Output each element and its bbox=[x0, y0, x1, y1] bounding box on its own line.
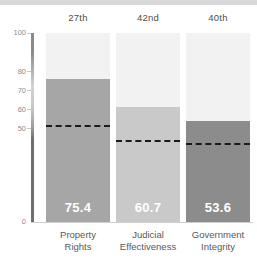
y-tick-mark-50 bbox=[27, 128, 31, 129]
y-tick-mark-80 bbox=[27, 71, 31, 72]
y-tick-mark-60 bbox=[27, 109, 31, 110]
bar-value-government-integrity: 53.6 bbox=[186, 200, 250, 215]
y-tick-label-100: 100 bbox=[4, 29, 26, 37]
y-tick-mark-100 bbox=[27, 33, 31, 34]
rule-of-law-bar-chart: 27th 42nd 40th 100 80 70 60 50 0 75. bbox=[0, 0, 257, 259]
category-label-property-rights: Property Rights bbox=[41, 229, 115, 252]
category-label-line: Judicial bbox=[111, 229, 185, 241]
category-label-judicial-effectiveness: Judicial Effectiveness bbox=[111, 229, 185, 252]
y-tick-label-70: 70 bbox=[4, 87, 26, 95]
y-tick-mark-70 bbox=[27, 90, 31, 91]
plot-area: 100 80 70 60 50 0 75.4 60.7 53.6 Propert… bbox=[0, 0, 257, 259]
category-label-government-integrity: Government Integrity bbox=[181, 229, 255, 252]
y-tick-label-60: 60 bbox=[4, 106, 26, 114]
y-tick-label-80: 80 bbox=[4, 68, 26, 76]
category-label-line: Property bbox=[41, 229, 115, 241]
average-marker-government-integrity bbox=[186, 143, 250, 145]
bar-value-property-rights: 75.4 bbox=[46, 200, 110, 215]
x-axis-baseline bbox=[31, 222, 253, 223]
category-label-line: Integrity bbox=[181, 241, 255, 253]
y-axis-spine bbox=[31, 33, 34, 222]
category-label-line: Rights bbox=[41, 241, 115, 253]
category-label-line: Government bbox=[181, 229, 255, 241]
bar-value-judicial-effectiveness: 60.7 bbox=[116, 200, 180, 215]
y-tick-label-50: 50 bbox=[4, 125, 26, 133]
category-label-line: Effectiveness bbox=[111, 241, 185, 253]
average-marker-property-rights bbox=[46, 125, 110, 127]
y-tick-label-0: 0 bbox=[4, 218, 26, 226]
average-marker-judicial-effectiveness bbox=[116, 140, 180, 142]
